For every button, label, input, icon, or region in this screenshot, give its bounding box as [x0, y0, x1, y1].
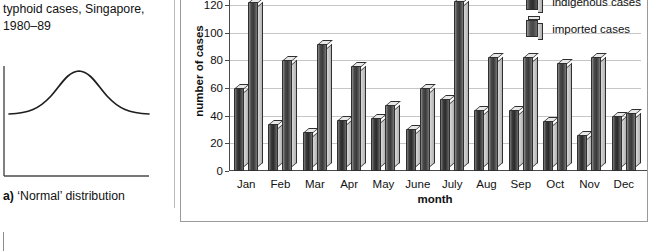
bar-indigenous	[268, 124, 278, 171]
y-tick-label: 80	[210, 54, 223, 66]
x-tick-label: Apr	[340, 178, 358, 190]
y-tick-label: 100	[204, 27, 223, 39]
legend-swatch-indigenous-icon	[526, 0, 538, 10]
x-tick-label: Sep	[511, 178, 531, 190]
bar-imported	[557, 63, 567, 171]
bar-imported	[351, 66, 361, 171]
bottom-tick-mark	[3, 232, 4, 251]
y-tick-label: 0	[217, 165, 223, 177]
bar-group: Mar	[298, 0, 332, 171]
bar-indigenous	[474, 110, 484, 171]
x-tick-label: Feb	[271, 178, 291, 190]
bar-group: Jan	[229, 0, 263, 171]
chart-legend: indigenous cases imported cases	[526, 0, 641, 37]
bar-imported	[317, 44, 327, 171]
legend-label-imported: imported cases	[552, 23, 630, 35]
normal-distribution-chart	[3, 66, 155, 186]
bar-group: June	[401, 0, 435, 171]
bar-imported	[282, 60, 292, 171]
bar-imported	[591, 57, 601, 171]
normal-curve-icon	[3, 66, 155, 186]
y-tick-label: 60	[210, 82, 223, 94]
bar-group: Aug	[469, 0, 503, 171]
legend-label-indigenous: indigenous cases	[552, 0, 641, 8]
vertical-divider	[174, 0, 175, 208]
bar-indigenous	[543, 121, 553, 171]
bar-indigenous	[371, 118, 381, 171]
x-tick-label: Oct	[546, 178, 564, 190]
bar-imported	[454, 1, 464, 171]
legend-item-imported: imported cases	[526, 20, 641, 37]
legend-item-indigenous: indigenous cases	[526, 0, 641, 10]
left-figure-panel: typhoid cases, Singapore, 1980–89 a) ‘No…	[0, 0, 176, 251]
bar-indigenous	[509, 110, 519, 171]
y-tick-label: 20	[210, 137, 223, 149]
x-tick-label: Dec	[614, 178, 634, 190]
x-tick-label: Aug	[476, 178, 496, 190]
bar-imported	[420, 88, 430, 171]
bar-group: Apr	[332, 0, 366, 171]
bar-indigenous	[337, 120, 347, 171]
bar-imported	[248, 2, 258, 171]
bar-group: Feb	[263, 0, 297, 171]
y-tick-label: 40	[210, 110, 223, 122]
x-axis-title: month	[229, 193, 641, 205]
x-tick-label: Nov	[579, 178, 599, 190]
caption-label-prefix: a)	[3, 189, 14, 203]
x-tick-label: July	[442, 178, 462, 190]
caption-typhoid-cases: typhoid cases, Singapore, 1980–89	[3, 1, 175, 34]
y-tick-mark	[225, 171, 229, 172]
bar-indigenous	[234, 88, 244, 171]
bar-indigenous	[612, 116, 622, 171]
bar-indigenous	[577, 135, 587, 171]
typhoid-cases-bar-chart: number of cases 020406080100120 JanFebMa…	[180, 0, 648, 222]
bar-group: May	[366, 0, 400, 171]
bar-indigenous	[303, 132, 313, 171]
legend-swatch-imported-icon	[526, 20, 538, 37]
y-tick-label: 120	[204, 0, 223, 11]
bar-imported	[523, 57, 533, 171]
bar-indigenous	[440, 99, 450, 171]
x-tick-label: Jan	[237, 178, 256, 190]
bar-group: July	[435, 0, 469, 171]
x-tick-label: June	[405, 178, 430, 190]
bar-imported	[385, 105, 395, 171]
x-tick-label: Mar	[305, 178, 325, 190]
x-tick-label: May	[373, 178, 395, 190]
caption-label-text: ‘Normal’ distribution	[14, 189, 125, 203]
bar-indigenous	[406, 129, 416, 171]
bar-imported	[626, 113, 636, 171]
bar-imported	[488, 57, 498, 171]
caption-normal-distribution: a) ‘Normal’ distribution	[3, 189, 175, 204]
